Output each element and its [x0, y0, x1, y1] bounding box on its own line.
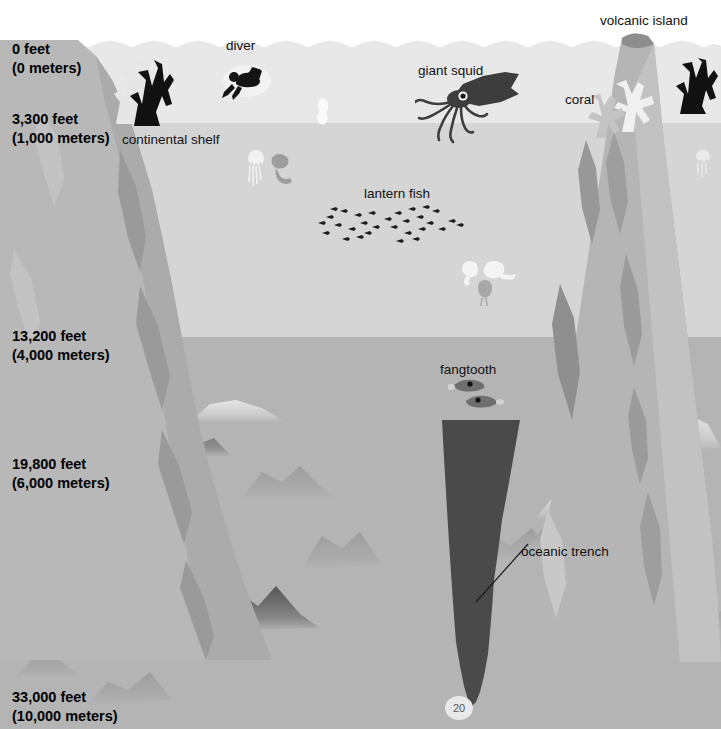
depth-meters: (4,000 meters) — [12, 346, 110, 365]
zone-midnight — [0, 337, 721, 729]
label-coral: coral — [565, 91, 594, 108]
depth-label-19800: 19,800 feet (6,000 meters) — [12, 455, 110, 493]
depth-label-33000: 33,000 feet (10,000 meters) — [12, 688, 118, 726]
depth-label-13200: 13,200 feet (4,000 meters) — [12, 327, 110, 365]
label-giant-squid: giant squid — [418, 62, 483, 79]
page-number-badge: 20 — [445, 696, 473, 720]
depth-feet: 0 feet — [12, 40, 81, 59]
depth-meters: (10,000 meters) — [12, 707, 118, 726]
depth-feet: 3,300 feet — [12, 110, 110, 129]
label-oceanic-trench: oceanic trench — [521, 543, 609, 561]
label-oceanic-trench-line2: trench — [571, 544, 609, 559]
label-diver: diver — [226, 37, 255, 54]
zone-twilight — [0, 123, 721, 337]
depth-meters: (0 meters) — [12, 59, 81, 78]
depth-feet: 19,800 feet — [12, 455, 110, 474]
label-continental-shelf: continental shelf — [122, 131, 200, 149]
depth-label-0: 0 feet (0 meters) — [12, 40, 81, 78]
label-volcanic-island: volcanic island — [600, 12, 688, 29]
label-fangtooth: fangtooth — [440, 361, 496, 378]
label-oceanic-trench-line1: oceanic — [521, 544, 568, 559]
depth-label-3300: 3,300 feet (1,000 meters) — [12, 110, 110, 148]
label-lantern-fish: lantern fish — [364, 185, 430, 202]
depth-feet: 33,000 feet — [12, 688, 118, 707]
ocean-depth-diagram: volcanic island diver giant squid coral … — [0, 0, 721, 729]
label-continental-shelf-line2: shelf — [191, 132, 220, 147]
depth-meters: (6,000 meters) — [12, 474, 110, 493]
depth-feet: 13,200 feet — [12, 327, 110, 346]
label-continental-shelf-line1: continental — [122, 132, 187, 147]
depth-meters: (1,000 meters) — [12, 129, 110, 148]
